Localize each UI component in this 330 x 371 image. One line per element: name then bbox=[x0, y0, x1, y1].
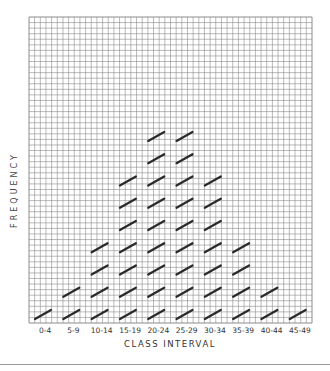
x-tick-label: 35-39 bbox=[232, 326, 254, 335]
x-tick-label: 30-34 bbox=[204, 326, 226, 335]
x-axis-label: CLASS INTERVAL bbox=[0, 339, 330, 349]
x-tick-label: 45-49 bbox=[289, 326, 311, 335]
x-tick-label: 20-24 bbox=[147, 326, 169, 335]
x-tick-label: 10-14 bbox=[91, 326, 113, 335]
x-tick-label: 25-29 bbox=[176, 326, 198, 335]
x-tick-label: 0-4 bbox=[39, 326, 51, 335]
separator-line bbox=[0, 364, 330, 365]
x-tick-label: 5-9 bbox=[67, 326, 79, 335]
grid-paper bbox=[29, 17, 312, 323]
y-axis-label: FREQUENCY bbox=[10, 152, 19, 228]
x-tick-labels: 0-45-910-1415-1920-2425-2930-3435-3940-4… bbox=[39, 326, 311, 335]
x-tick-label: 40-44 bbox=[261, 326, 283, 335]
x-tick-label: 15-19 bbox=[119, 326, 141, 335]
tally-chart: 0-45-910-1415-1920-2425-2930-3435-3940-4… bbox=[0, 0, 330, 371]
